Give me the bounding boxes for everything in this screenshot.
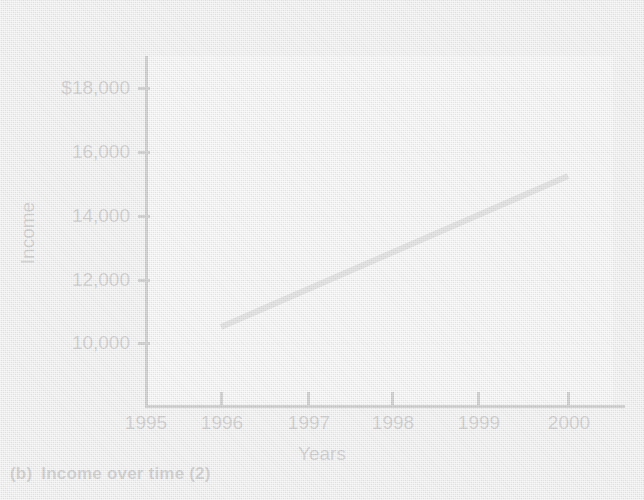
x-tick-label-2000: 2000 xyxy=(529,412,609,434)
x-tick-label-1996: 1996 xyxy=(182,412,262,434)
y-tick-label-12000: 12,000 xyxy=(34,269,130,291)
figure-caption-label: (b) xyxy=(10,464,32,483)
x-tick-label-1999: 1999 xyxy=(439,412,519,434)
x-axis-line xyxy=(145,405,625,408)
figure-income-over-time: $18,000 16,000 14,000 12,000 10,000 1995… xyxy=(0,0,644,500)
y-axis-line xyxy=(145,56,148,408)
gridline-16000 xyxy=(146,152,613,153)
y-tick-mark-18000 xyxy=(138,87,150,90)
gridline-10000 xyxy=(146,343,613,344)
gridline-14000 xyxy=(146,216,613,217)
y-tick-label-10000: 10,000 xyxy=(34,332,130,354)
y-tick-label-16000: 16,000 xyxy=(34,141,130,163)
y-tick-mark-16000 xyxy=(138,151,150,154)
x-tick-label-1995: 1995 xyxy=(106,412,186,434)
y-tick-label-18000: $18,000 xyxy=(34,77,130,99)
plot-area xyxy=(146,56,613,405)
y-tick-label-14000: 14,000 xyxy=(34,205,130,227)
gridline-12000 xyxy=(146,280,613,281)
figure-caption-text: Income over time (2) xyxy=(41,464,210,483)
y-tick-mark-10000 xyxy=(138,342,150,345)
x-tick-label-1998: 1998 xyxy=(353,412,433,434)
x-tick-mark-1998 xyxy=(391,392,394,406)
x-tick-mark-1996 xyxy=(220,392,223,406)
y-tick-mark-14000 xyxy=(138,215,150,218)
figure-caption: (b)Income over time (2) xyxy=(10,464,211,484)
y-axis-title: Income xyxy=(17,183,39,283)
gridline-18000 xyxy=(146,88,613,89)
x-tick-label-1997: 1997 xyxy=(269,412,349,434)
x-tick-mark-1999 xyxy=(477,392,480,406)
x-tick-mark-2000 xyxy=(567,392,570,406)
x-tick-mark-1997 xyxy=(307,392,310,406)
y-tick-mark-12000 xyxy=(138,279,150,282)
x-axis-title: Years xyxy=(262,443,382,465)
